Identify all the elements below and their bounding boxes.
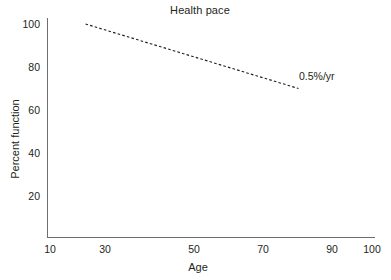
chart-figure: Health pace Percent function Age 100 80 … (0, 0, 391, 280)
series-line-health-pace (86, 24, 299, 89)
plot-area (0, 0, 391, 280)
